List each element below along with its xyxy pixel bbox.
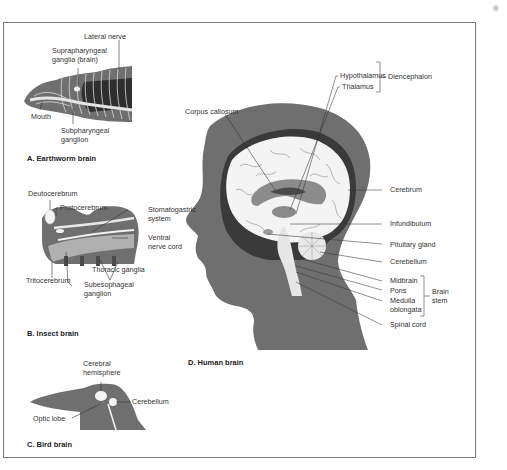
label-thoracic-ganglia: Thoracic ganglia — [92, 266, 145, 275]
label-infundibulum: Infundibulum — [390, 220, 431, 229]
label-cerebrum: Cerebrum — [390, 186, 422, 195]
label-subesophageal-ganglion: ganglion — [84, 290, 111, 299]
label-cerebellum-human: Cerebellum — [390, 258, 427, 267]
label-hemisphere: hemisphere — [83, 369, 121, 378]
caption-insect: B. Insect brain — [27, 329, 79, 338]
corner-mark-icon: ❀ — [492, 3, 502, 13]
label-stem: stem — [432, 297, 448, 306]
label-ganglia-brain: ganglia (brain) — [52, 56, 98, 65]
label-optic-lobe: Optic lobe — [33, 415, 65, 424]
label-hypothalamus: Hypothalamus — [340, 72, 386, 81]
label-pons: Pons — [390, 287, 406, 296]
label-pituitary-gland: Pituitary gland — [390, 241, 436, 250]
label-protocerebrum: Protocerebrum — [60, 204, 108, 213]
caption-human: D. Human brain — [188, 358, 243, 367]
label-subpharyngeal-ganglion: ganglion — [61, 136, 88, 145]
label-deutocerebrum: Deutocerebrum — [28, 190, 78, 199]
label-midbrain: Midbrain — [390, 277, 418, 286]
label-thalamus: Thalamus — [342, 83, 374, 92]
caption-earthworm: A. Earthworm brain — [27, 154, 96, 163]
label-mouth: Mouth — [31, 113, 51, 122]
label-lateral-nerve: Lateral nerve — [84, 33, 126, 42]
label-cerebellum-bird: Cerebellum — [132, 398, 169, 407]
label-oblongata: oblongata — [390, 306, 422, 315]
label-tritocerebrum: Tritocerebrum — [26, 277, 70, 286]
label-spinal-cord: Spinal cord — [390, 321, 426, 330]
illustration-layer — [0, 0, 507, 470]
label-nerve-cord: nerve cord — [148, 243, 182, 252]
label-stomatogastric-system: system — [148, 215, 171, 224]
label-corpus-callosum: Corpus callosum — [185, 108, 239, 117]
caption-bird: C. Bird brain — [27, 440, 72, 449]
label-diencephalon: Diencephalon — [388, 73, 432, 82]
